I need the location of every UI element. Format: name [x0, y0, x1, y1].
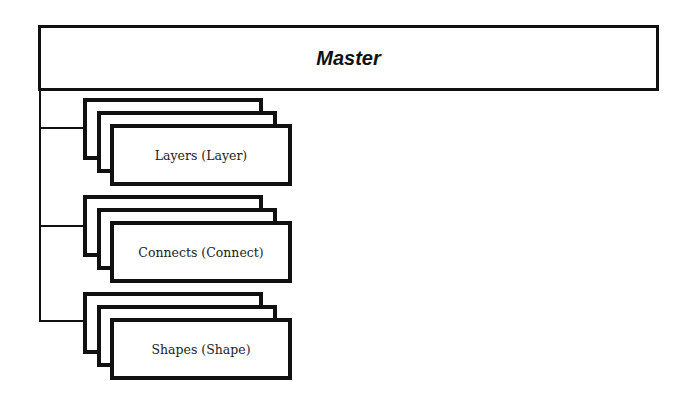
stack-card-front: Layers (Layer): [110, 124, 292, 186]
tree-trunk-line: [39, 91, 41, 321]
branch-line-connects: [39, 225, 85, 227]
node-label-layers: Layers (Layer): [155, 148, 248, 163]
node-label-connects: Connects (Connect): [138, 245, 263, 260]
branch-line-layers: [39, 127, 85, 129]
node-label-shapes: Shapes (Shape): [151, 342, 250, 357]
stack-card-front: Shapes (Shape): [110, 318, 292, 380]
branch-line-shapes: [39, 320, 85, 322]
stack-card-front: Connects (Connect): [110, 221, 292, 283]
master-title: Master: [316, 47, 380, 70]
master-node: Master: [38, 25, 659, 91]
